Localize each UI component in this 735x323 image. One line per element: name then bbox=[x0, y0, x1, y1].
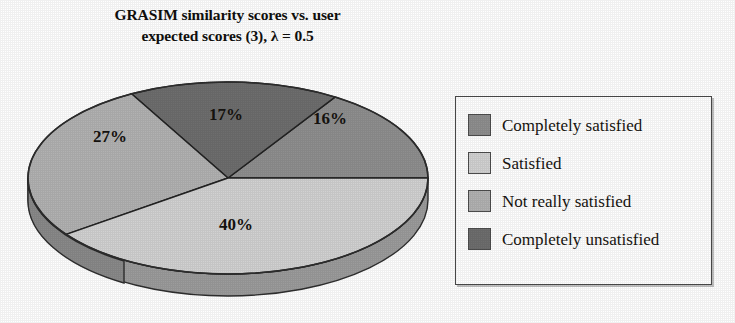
legend-item-completely-satisfied[interactable]: Completely satisfied bbox=[468, 106, 705, 144]
pie-label-completely-satisfied: 16% bbox=[313, 109, 347, 128]
legend-swatch-icon-completely-unsatisfied bbox=[468, 228, 491, 250]
chart-figure: GRASIM similarity scores vs. user expect… bbox=[0, 0, 735, 323]
legend-item-satisfied[interactable]: Satisfied bbox=[468, 144, 705, 182]
legend-swatch-icon-not-really-satisfied bbox=[468, 190, 491, 212]
legend-label-not-really-satisfied: Not really satisfied bbox=[502, 192, 631, 211]
pie-label-not-really-satisfied: 27% bbox=[93, 127, 127, 146]
legend-item-not-really-satisfied[interactable]: Not really satisfied bbox=[468, 182, 705, 220]
pie-chart-svg: 17% 16% 27% 40% bbox=[0, 52, 462, 323]
legend-label-completely-unsatisfied: Completely unsatisfied bbox=[502, 230, 659, 249]
chart-title-line-1: GRASIM similarity scores vs. user bbox=[0, 4, 455, 25]
legend-list: Completely satisfied Satisfied Not reall… bbox=[468, 106, 705, 278]
legend-item-completely-unsatisfied[interactable]: Completely unsatisfied bbox=[468, 220, 705, 258]
pie-label-completely-unsatisfied: 17% bbox=[209, 105, 243, 124]
chart-title-line-2: expected scores (3), λ = 0.5 bbox=[0, 25, 455, 46]
chart-legend: Completely satisfied Satisfied Not reall… bbox=[455, 96, 712, 285]
chart-title: GRASIM similarity scores vs. user expect… bbox=[0, 4, 455, 46]
legend-swatch-icon-satisfied bbox=[468, 152, 491, 174]
pie-chart: 17% 16% 27% 40% bbox=[0, 52, 462, 323]
legend-label-completely-satisfied: Completely satisfied bbox=[502, 116, 642, 135]
legend-swatch-icon-completely-satisfied bbox=[468, 114, 491, 136]
pie-label-satisfied: 40% bbox=[219, 215, 253, 234]
legend-label-satisfied: Satisfied bbox=[502, 154, 562, 173]
